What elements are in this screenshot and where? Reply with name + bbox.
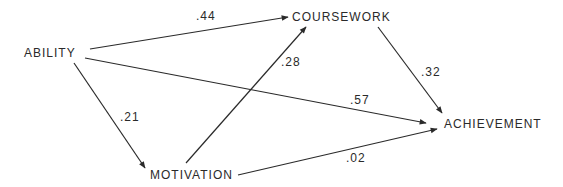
node-achievement: ACHIEVEMENT [444, 117, 542, 131]
coefficient-motivation-achievement: .02 [346, 151, 366, 165]
coefficient-ability-motivation: .21 [120, 110, 140, 124]
edge-motivation-achievement [238, 129, 437, 175]
node-motivation: MOTIVATION [150, 168, 233, 182]
edge-motivation-coursework [186, 27, 306, 163]
coefficient-ability-coursework: .44 [196, 9, 216, 23]
node-coursework: COURSEWORK [292, 10, 391, 24]
coefficient-coursework-achievement: .32 [421, 65, 441, 79]
node-ability: ABILITY [24, 46, 76, 60]
path-diagram: ABILITY COURSEWORK MOTIVATION ACHIEVEMEN… [0, 0, 563, 187]
edges-layer [0, 0, 563, 187]
coefficient-motivation-coursework: .28 [281, 55, 301, 69]
edge-ability-coursework [90, 17, 288, 49]
coefficient-ability-achievement: .57 [350, 93, 370, 107]
